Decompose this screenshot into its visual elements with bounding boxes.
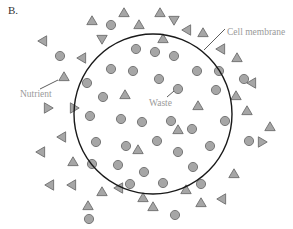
- cell-diagram-svg: Cell membrane Nutrient Waste: [0, 0, 293, 229]
- waste-particle: [196, 179, 205, 188]
- nutrient-particle: [45, 180, 54, 190]
- nutrient-particle: [67, 180, 76, 190]
- waste-particle: [91, 137, 100, 146]
- waste-particle: [121, 141, 130, 150]
- nutrient-particle: [59, 72, 69, 81]
- waste-particle: [137, 117, 146, 126]
- waste-particle: [166, 116, 175, 125]
- nutrient-particle: [36, 147, 45, 157]
- particles-layer: [36, 8, 275, 224]
- nutrient-particle: [83, 201, 93, 210]
- waste-particle: [116, 114, 125, 123]
- waste-particle: [158, 178, 167, 187]
- nutrient-particle: [97, 35, 107, 44]
- waste-particle: [211, 85, 220, 94]
- waste-particle: [150, 47, 159, 56]
- waste-particle: [169, 51, 178, 60]
- nutrient-particle: [148, 202, 158, 211]
- nutrient-particle: [193, 101, 203, 110]
- waste-particle: [131, 44, 140, 53]
- waste-particle: [239, 74, 248, 83]
- nutrient-particle: [44, 103, 53, 113]
- cell-membrane-label: Cell membrane: [227, 27, 285, 37]
- nutrient-particle: [155, 8, 165, 17]
- waste-particle: [113, 160, 122, 169]
- waste-particle: [98, 92, 107, 101]
- waste-particle: [106, 64, 115, 73]
- nutrient-particle: [87, 16, 97, 25]
- waste-particle: [152, 136, 161, 145]
- cell-membrane: [74, 34, 232, 194]
- waste-particle: [170, 210, 179, 219]
- nutrient-particle: [242, 106, 252, 115]
- waste-particle: [84, 214, 93, 223]
- waste-particle: [173, 84, 182, 93]
- waste-particle: [82, 78, 91, 87]
- waste-label: Waste: [149, 98, 172, 108]
- nutrient-particle: [182, 25, 191, 35]
- waste-particle: [85, 111, 94, 120]
- nutrient-particle: [231, 91, 241, 100]
- nutrient-particle: [217, 194, 226, 204]
- nutrient-leader-line: [40, 80, 58, 89]
- nutrient-particle: [173, 125, 183, 134]
- waste-particle: [106, 20, 115, 29]
- nutrient-particle: [38, 36, 47, 46]
- nutrient-particle: [120, 90, 130, 99]
- nutrient-particle: [77, 53, 86, 63]
- nutrient-particle: [134, 20, 144, 29]
- nutrient-particle: [68, 157, 78, 166]
- nutrient-particle: [133, 145, 143, 154]
- waste-particle: [188, 162, 197, 171]
- waste-particle: [173, 147, 182, 156]
- nutrient-particle: [232, 53, 242, 62]
- nutrient-particle: [196, 198, 206, 207]
- waste-particle: [205, 141, 214, 150]
- waste-leader-line: [167, 91, 174, 97]
- nutrient-particle: [57, 132, 66, 142]
- nutrient-label: Nutrient: [20, 89, 52, 99]
- nutrient-particle: [198, 28, 208, 37]
- waste-particle: [154, 74, 163, 83]
- waste-particle: [244, 136, 253, 145]
- waste-particle: [125, 179, 134, 188]
- waste-particle: [139, 167, 148, 176]
- waste-particle: [187, 124, 196, 133]
- nutrient-particle: [265, 122, 275, 131]
- waste-particle: [55, 51, 64, 60]
- cell-diagram: B. Cell membrane Nutrient Waste: [0, 0, 293, 229]
- nutrient-particle: [229, 169, 239, 178]
- nutrient-particle: [169, 16, 179, 25]
- waste-particle: [128, 66, 137, 75]
- nutrient-particle: [258, 137, 267, 147]
- nutrient-particle: [97, 187, 107, 196]
- nutrient-particle: [119, 8, 129, 17]
- waste-particle: [192, 66, 201, 75]
- waste-particle: [220, 116, 229, 125]
- nutrient-particle: [216, 44, 225, 54]
